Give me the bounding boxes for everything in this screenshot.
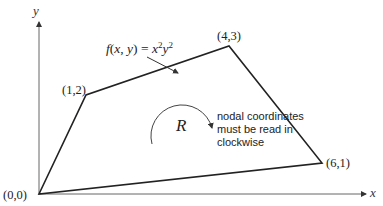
note-line-1: nodal coordinates — [217, 110, 304, 122]
note-line-3: clockwise — [217, 136, 264, 148]
region-label: R — [175, 116, 187, 135]
vertex-label-4-3: (4,3) — [217, 29, 241, 43]
note-line-2: must be read in — [217, 123, 293, 135]
x-axis-label: x — [369, 185, 376, 200]
function-label: f(x, y) = x2y2 — [106, 40, 173, 56]
vertex-label-origin: (0,0) — [3, 188, 27, 202]
quadrilateral-region-diagram: x y (0,0) (1,2) (4,3) (6,1) f(x, y) = x2… — [0, 0, 383, 206]
y-axis-label: y — [31, 3, 39, 18]
vertex-label-6-1: (6,1) — [326, 156, 350, 170]
vertex-label-1-2: (1,2) — [62, 83, 86, 97]
